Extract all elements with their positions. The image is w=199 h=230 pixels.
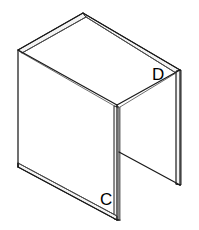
edge-label-d: D xyxy=(152,65,164,84)
isometric-box-drawing: C D xyxy=(0,0,199,230)
figure-canvas: C D xyxy=(0,0,199,230)
edge-label-c: C xyxy=(100,190,112,209)
